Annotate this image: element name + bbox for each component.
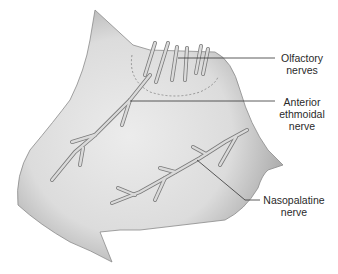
label-olfactory-nerves: Olfactory nerves (272, 52, 332, 76)
nasal-septum-shape (18, 10, 284, 262)
label-nasopalatine-nerve: Nasopalatine nerve (258, 194, 330, 218)
septum-diagram (0, 0, 338, 274)
label-anterior-ethmoidal-nerve: Anterior ethmoidal nerve (272, 96, 332, 132)
